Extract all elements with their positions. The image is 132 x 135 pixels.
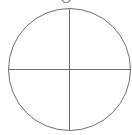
circle-crosshair-diagram bbox=[0, 0, 132, 135]
